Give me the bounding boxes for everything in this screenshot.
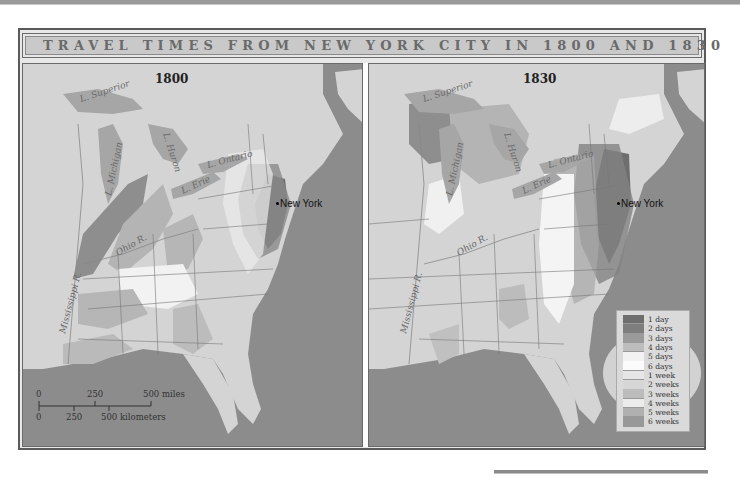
map-1830: L. Superior L. Michigan L. Huron L. Erie… bbox=[368, 63, 705, 447]
city-label-new-york-1830: New York bbox=[621, 198, 663, 209]
legend-swatch bbox=[623, 408, 644, 418]
legend-row: 6 weeks bbox=[617, 417, 689, 426]
scale-km-0: 0 bbox=[36, 412, 41, 422]
legend-row: 3 weeks bbox=[617, 389, 689, 398]
legend-label: 1 week bbox=[648, 371, 675, 380]
figure-title: TRAVEL TIMES FROM NEW YORK CITY IN 1800 … bbox=[43, 38, 725, 53]
legend-swatch bbox=[623, 361, 644, 371]
legend-label: 5 days bbox=[648, 352, 673, 361]
legend-row: 4 days bbox=[617, 343, 689, 352]
scale-miles-250: 250 bbox=[87, 389, 103, 399]
legend-row: 6 days bbox=[617, 361, 689, 370]
legend-row: 2 days bbox=[617, 324, 689, 333]
legend-swatch bbox=[623, 389, 644, 399]
legend-swatch bbox=[623, 399, 644, 409]
legend-row: 1 week bbox=[617, 371, 689, 380]
legend-swatch bbox=[623, 324, 644, 334]
legend-label: 3 weeks bbox=[648, 390, 679, 399]
legend-swatch bbox=[623, 352, 644, 362]
legend-row: 1 day bbox=[617, 315, 689, 324]
legend-row: 5 days bbox=[617, 352, 689, 361]
scale-km-500: 500 kilometers bbox=[101, 412, 166, 422]
legend-label: 4 weeks bbox=[648, 399, 679, 408]
legend-swatch bbox=[623, 371, 644, 381]
legend-label: 4 days bbox=[648, 343, 673, 352]
title-bar: TRAVEL TIMES FROM NEW YORK CITY IN 1800 … bbox=[22, 33, 702, 58]
bottom-rule bbox=[494, 470, 708, 474]
scale-miles-0: 0 bbox=[36, 389, 41, 399]
legend-row: 3 days bbox=[617, 334, 689, 343]
legend-swatch bbox=[623, 333, 644, 343]
scale-km-250: 250 bbox=[66, 412, 82, 422]
legend-row: 5 weeks bbox=[617, 408, 689, 417]
map-year-1800: 1800 bbox=[155, 72, 188, 86]
legend-label: 2 days bbox=[648, 324, 673, 333]
legend-label: 1 day bbox=[648, 315, 669, 324]
legend-swatch bbox=[623, 417, 644, 427]
scale-miles-500: 500 miles bbox=[143, 389, 185, 399]
map-1800: L. Superior L. Michigan L. Huron L. Erie… bbox=[22, 63, 363, 447]
legend-swatch bbox=[623, 343, 644, 353]
legend-label: 6 weeks bbox=[648, 417, 679, 426]
scale-bar: 0 250 500 miles 0 250 500 kilometers bbox=[31, 386, 211, 436]
legend-row: 4 weeks bbox=[617, 399, 689, 408]
legend: 1 day 2 days 3 days 4 days 5 days 6 days… bbox=[616, 310, 690, 432]
top-rule bbox=[0, 0, 740, 5]
legend-swatch bbox=[623, 315, 644, 325]
new-york-marker-1800 bbox=[276, 202, 279, 205]
legend-label: 5 weeks bbox=[648, 408, 679, 417]
city-label-new-york-1800: New York bbox=[280, 198, 322, 209]
legend-label: 6 days bbox=[648, 362, 673, 371]
map-year-1830: 1830 bbox=[523, 72, 556, 86]
new-york-marker-1830 bbox=[617, 202, 620, 205]
legend-swatch bbox=[623, 380, 644, 390]
legend-label: 2 weeks bbox=[648, 380, 679, 389]
legend-row: 2 weeks bbox=[617, 380, 689, 389]
legend-label: 3 days bbox=[648, 334, 673, 343]
